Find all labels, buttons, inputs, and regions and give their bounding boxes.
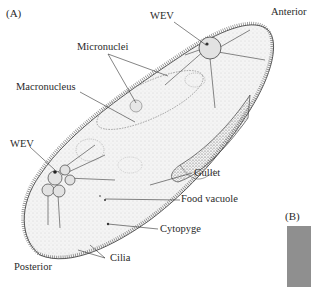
panel-label-a: (A)	[6, 8, 21, 19]
label-cilia: Cilia	[110, 253, 130, 264]
label-micronuclei: Micronuclei	[77, 42, 128, 53]
panel-b-image	[287, 226, 311, 287]
label-macronucleus: Macronucleus	[16, 82, 75, 93]
label-wev-anterior: WEV	[150, 11, 174, 22]
label-food-vacuole: Food vacuole	[181, 194, 238, 205]
label-gullet: Gullet	[194, 168, 220, 179]
paramecium-diagram	[0, 0, 311, 287]
label-cytopyge: Cytopyge	[160, 224, 201, 235]
micronucleus-shape	[130, 100, 142, 112]
label-posterior: Posterior	[14, 262, 52, 273]
panel-label-b: (B)	[285, 211, 300, 222]
label-wev-posterior: WEV	[10, 139, 34, 150]
cell-body	[23, 23, 274, 258]
label-anterior: Anterior	[271, 7, 307, 18]
